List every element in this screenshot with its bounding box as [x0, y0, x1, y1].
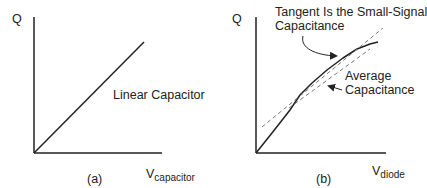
average-arrow: [329, 86, 342, 90]
panel-a-caption: (a): [87, 173, 102, 186]
tangent-annotation-line1: Tangent Is the Small-Signal: [275, 6, 427, 19]
panel-a-x-axis-label: Vcapacitor: [146, 168, 195, 181]
tangent-annotation-line2: Capacitance: [275, 20, 345, 33]
panel-b-y-axis-label: Q: [232, 13, 242, 26]
diode-qv-curve: [256, 42, 378, 153]
average-annotation-line2: Capacitance: [345, 84, 415, 97]
panel-b-x-axis-label: Vdiode: [372, 165, 405, 178]
panel-b-x-axis-label-sub: diode: [380, 169, 404, 180]
tangent-arrow: [303, 36, 336, 56]
panel-a-annotation: Linear Capacitor: [113, 89, 205, 102]
panel-b-caption: (b): [316, 173, 331, 186]
average-annotation-line1: Average: [345, 70, 391, 83]
panel-a-y-axis-label: Q: [12, 13, 22, 26]
panel-a-x-axis-label-sub: capacitor: [154, 172, 195, 183]
